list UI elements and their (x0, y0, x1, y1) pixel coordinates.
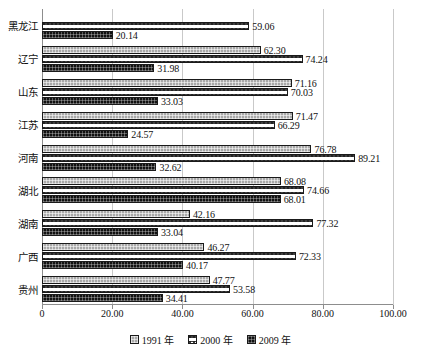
legend-label: 1991 年 (142, 332, 175, 347)
x-tick-mark (42, 305, 43, 309)
bar-1991年-广西 (42, 243, 204, 251)
bar-track: 53.58 (42, 285, 393, 293)
bar-group: 59.0620.14 (42, 9, 393, 42)
bar-track: 34.41 (42, 294, 393, 302)
bar-track: 33.04 (42, 228, 393, 236)
x-tick-mark (323, 305, 324, 309)
category-label-湖南: 湖南 (0, 216, 38, 231)
bar-1991年-山东 (42, 79, 292, 87)
category-label-黑龙江: 黑龙江 (0, 18, 38, 33)
legend-item-2009年[interactable]: 2009 年 (247, 332, 292, 347)
category-label-湖北: 湖北 (0, 183, 38, 198)
bar-track: 59.06 (42, 22, 393, 30)
x-tick-label-80.00: 80.00 (312, 308, 335, 319)
bar-track: 71.47 (42, 112, 393, 120)
bar-value-label: 68.01 (281, 194, 306, 205)
legend-item-1991年[interactable]: 1991 年 (130, 332, 175, 347)
bar-2009年-辽宁 (42, 64, 154, 72)
category-label-江苏: 江苏 (0, 117, 38, 132)
legend-swatch-icon (130, 335, 139, 344)
bar-value-label: 89.21 (355, 152, 380, 163)
bar-group: 71.4766.2924.57 (42, 108, 393, 141)
bar-value-label: 31.98 (154, 62, 179, 73)
bar-1991年-河南 (42, 145, 311, 153)
x-tick-label-0: 0 (40, 308, 45, 319)
bar-1991年-贵州 (42, 276, 210, 284)
bar-track: 74.24 (42, 55, 393, 63)
bar-2009年-江苏 (42, 130, 128, 138)
bar-group: 71.1670.0333.03 (42, 75, 393, 108)
bar-track: 68.08 (42, 177, 393, 185)
bar-track: 74.66 (42, 186, 393, 194)
bar-track: 42.16 (42, 210, 393, 218)
category-label-贵州: 贵州 (0, 282, 38, 297)
bar-2000年-广西 (42, 252, 296, 260)
bar-value-label: 24.57 (128, 128, 153, 139)
bar-value-label: 74.24 (303, 53, 328, 64)
bar-track: 66.29 (42, 121, 393, 129)
bar-value-label: 40.17 (183, 260, 208, 271)
category-label-山东: 山东 (0, 84, 38, 99)
bar-track: 47.77 (42, 276, 393, 284)
bar-track: 33.03 (42, 97, 393, 105)
bar-track: 76.78 (42, 145, 393, 153)
x-tick-label-60.00: 60.00 (241, 308, 264, 319)
legend-label: 2000 年 (200, 332, 233, 347)
bar-group: 46.2772.3340.17 (42, 239, 393, 272)
bar-group: 68.0874.6668.01 (42, 173, 393, 206)
bar-value-label: 34.41 (163, 293, 188, 304)
bar-track: 77.32 (42, 219, 393, 227)
bar-value-label: 74.66 (304, 185, 329, 196)
bar-2009年-黑龙江 (42, 31, 113, 39)
bar-2009年-广西 (42, 261, 183, 269)
bar-track: 20.14 (42, 31, 393, 39)
x-tick-mark (182, 305, 183, 309)
bar-value-label: 68.08 (281, 176, 306, 187)
bar-track: 62.30 (42, 46, 393, 54)
bar-track: 24.57 (42, 130, 393, 138)
legend-swatch-icon (188, 335, 197, 344)
bar-value-label: 33.04 (158, 227, 183, 238)
category-label-河南: 河南 (0, 150, 38, 165)
bar-2000年-江苏 (42, 121, 275, 129)
x-tick-mark (393, 305, 394, 309)
bar-track: 89.21 (42, 154, 393, 162)
gridline-100.00 (393, 9, 394, 305)
bar-track: 46.27 (42, 243, 393, 251)
bar-value-label: 32.62 (156, 161, 181, 172)
legend-item-2000年[interactable]: 2000 年 (188, 332, 233, 347)
bar-2000年-河南 (42, 154, 355, 162)
bar-2009年-贵州 (42, 294, 163, 302)
bar-value-label: 20.14 (113, 30, 138, 41)
bar-group: 47.7753.5834.41 (42, 272, 393, 305)
bar-group: 42.1677.3233.04 (42, 206, 393, 239)
bar-value-label: 42.16 (190, 209, 215, 220)
bar-value-label: 53.58 (230, 284, 255, 295)
bar-track: 71.16 (42, 79, 393, 87)
category-label-广西: 广西 (0, 249, 38, 264)
bar-2009年-山东 (42, 97, 158, 105)
bar-1991年-湖北 (42, 177, 281, 185)
bar-2009年-湖北 (42, 195, 281, 203)
bar-value-label: 70.03 (288, 86, 313, 97)
bar-1991年-辽宁 (42, 46, 261, 54)
bar-2000年-黑龙江 (42, 22, 249, 30)
bar-track: 32.62 (42, 163, 393, 171)
category-label-辽宁: 辽宁 (0, 51, 38, 66)
bar-track (42, 13, 393, 21)
x-tick-mark (112, 305, 113, 309)
x-tick-mark (253, 305, 254, 309)
bar-value-label: 77.32 (313, 218, 338, 229)
bar-track: 31.98 (42, 64, 393, 72)
chart-legend: 1991 年2000 年2009 年 (0, 332, 421, 347)
bar-1991年-江苏 (42, 112, 293, 120)
bar-value-label: 46.27 (204, 242, 229, 253)
x-tick-label-100.00: 100.00 (379, 308, 407, 319)
bar-group: 62.3074.2431.98 (42, 42, 393, 75)
bar-2009年-湖南 (42, 228, 158, 236)
bar-2009年-河南 (42, 163, 156, 171)
legend-swatch-icon (247, 335, 256, 344)
bar-value-label: 33.03 (158, 95, 183, 106)
bar-value-label: 72.33 (296, 251, 321, 262)
bar-track: 72.33 (42, 252, 393, 260)
